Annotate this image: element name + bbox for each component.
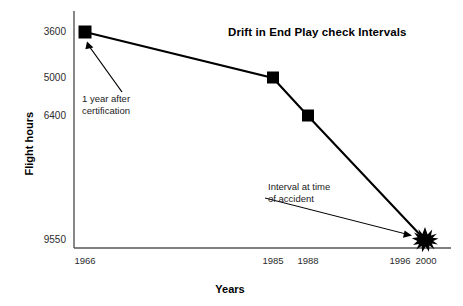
chart-figure: Drift in End Play check Intervals 3600 5… bbox=[0, 0, 463, 306]
annotation-line-2: certification bbox=[82, 105, 130, 116]
x-axis-tick-label: 1988 bbox=[288, 255, 328, 267]
y-axis-title: Flight hours bbox=[23, 99, 36, 189]
annotation-arrow-certification bbox=[85, 42, 122, 93]
y-axis-tick-label: 6400 bbox=[32, 110, 66, 122]
annotation-line-1: Interval at time bbox=[268, 181, 330, 192]
x-axis-tick-label: 1985 bbox=[253, 255, 293, 267]
y-axis-tick-label: 5000 bbox=[32, 72, 66, 84]
chart-title: Drift in End Play check Intervals bbox=[228, 25, 406, 39]
data-point-marker bbox=[267, 72, 279, 84]
data-line-series-0 bbox=[85, 32, 425, 240]
data-point-marker bbox=[79, 26, 92, 39]
annotation-line-1: 1 year after bbox=[82, 93, 130, 104]
y-axis-tick-label: 3600 bbox=[32, 26, 66, 38]
data-point-marker bbox=[302, 110, 314, 122]
y-axis-tick-label: 9550 bbox=[32, 234, 66, 246]
annotation-line-2: of accident bbox=[268, 193, 314, 204]
x-axis-tick-label: 2000 bbox=[406, 255, 446, 267]
x-axis-tick-label: 1966 bbox=[65, 255, 105, 267]
x-axis-title: Years bbox=[185, 283, 275, 296]
annotation-certification-label: 1 year aftercertification bbox=[82, 93, 130, 116]
annotation-accident-label: Interval at timeof accident bbox=[268, 181, 330, 204]
